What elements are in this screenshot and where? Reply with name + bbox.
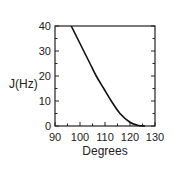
chart: 010203040 90100110120130 J(Hz) Degrees (0, 0, 174, 169)
y-tick-label: 40 (39, 20, 51, 32)
y-tick-label: 30 (39, 45, 51, 57)
x-tick-label: 90 (49, 131, 61, 143)
x-tick-label: 120 (121, 131, 139, 143)
y-tick-label: 10 (39, 95, 51, 107)
y-tick-label: 20 (39, 70, 51, 82)
x-tick-label: 130 (146, 131, 164, 143)
y-axis-label: J(Hz) (9, 77, 38, 91)
x-axis-label: Degrees (82, 144, 127, 158)
plot-frame (55, 26, 155, 126)
x-tick-label: 110 (96, 131, 114, 143)
x-axis-ticks: 90100110120130 (49, 122, 164, 143)
data-curve (71, 26, 145, 126)
x-tick-label: 100 (71, 131, 89, 143)
